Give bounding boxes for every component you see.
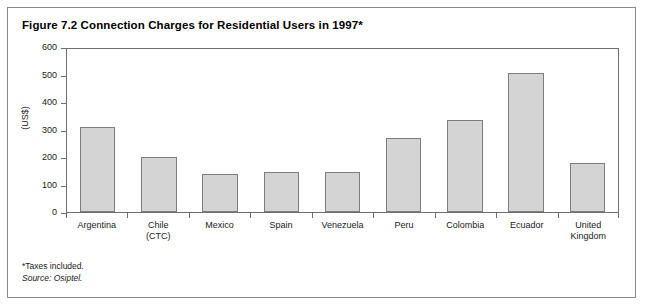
figure-frame: Figure 7.2 Connection Charges for Reside… [7, 7, 636, 298]
x-axis-label-line: Venezuela [312, 220, 373, 231]
bars-layer [67, 49, 618, 212]
bar-slot [128, 49, 189, 212]
x-tick-mark [127, 213, 128, 218]
x-axis-label-united-kingdom: UnitedKingdom [558, 220, 619, 242]
x-axis-label-line: Spain [250, 220, 311, 231]
bar-slot [557, 49, 618, 212]
figure-footnotes: *Taxes included. Source: Osiptel. [22, 261, 84, 284]
bar-venezuela [325, 172, 361, 212]
x-axis-label-line: United [558, 220, 619, 231]
y-tick-label: 0 [52, 207, 57, 217]
x-tick-mark [618, 213, 619, 218]
bar-united-kingdom [570, 163, 606, 213]
x-axis-label-line: (CTC) [127, 231, 188, 242]
x-axis-label-chile-ctc: Chile(CTC) [127, 220, 188, 242]
x-tick-mark [373, 213, 374, 218]
x-axis-label-colombia: Colombia [435, 220, 496, 242]
bar-slot [312, 49, 373, 212]
y-axis-ticks: 0100200300400500600 [22, 48, 66, 213]
note-taxes-included: *Taxes included. [22, 261, 84, 273]
x-axis-label-spain: Spain [250, 220, 311, 242]
y-tick-label: 300 [42, 125, 57, 135]
x-tick-mark [250, 213, 251, 218]
x-axis-labels: ArgentinaChile(CTC)MexicoSpainVenezuelaP… [66, 220, 619, 242]
x-axis-label-argentina: Argentina [66, 220, 127, 242]
y-tick-label: 200 [42, 152, 57, 162]
bar-slot [251, 49, 312, 212]
bar-chile-ctc [141, 157, 177, 212]
bar-slot [373, 49, 434, 212]
x-axis-label-line: Mexico [189, 220, 250, 231]
x-axis-label-line: Peru [373, 220, 434, 231]
bar-colombia [447, 120, 483, 212]
x-axis-label-ecuador: Ecuador [496, 220, 557, 242]
x-tick-mark [189, 213, 190, 218]
x-tick-mark [496, 213, 497, 218]
x-tick-mark [312, 213, 313, 218]
note-source: Source: Osiptel. [22, 273, 84, 285]
bar-slot [434, 49, 495, 212]
y-tick-label: 600 [42, 42, 57, 52]
bar-slot [189, 49, 250, 212]
bar-argentina [80, 127, 116, 212]
x-tick-mark [66, 213, 67, 218]
bar-slot [496, 49, 557, 212]
plot-area [66, 48, 619, 213]
y-tick-label: 500 [42, 70, 57, 80]
figure-title: Figure 7.2 Connection Charges for Reside… [22, 19, 363, 31]
x-axis-label-venezuela: Venezuela [312, 220, 373, 242]
bar-peru [386, 138, 422, 212]
x-tick-mark [558, 213, 559, 218]
y-tick-label: 100 [42, 180, 57, 190]
x-axis-label-mexico: Mexico [189, 220, 250, 242]
x-axis-label-line: Colombia [435, 220, 496, 231]
bar-chart: (US$) 0100200300400500600 ArgentinaChile… [22, 46, 622, 251]
x-axis-ticks [66, 213, 619, 219]
bar-mexico [202, 174, 238, 212]
y-tick-label: 400 [42, 97, 57, 107]
bar-slot [67, 49, 128, 212]
x-axis-label-line: Ecuador [496, 220, 557, 231]
x-axis-label-line: Kingdom [558, 231, 619, 242]
x-tick-mark [435, 213, 436, 218]
bar-spain [264, 172, 300, 212]
bar-ecuador [508, 73, 544, 212]
x-axis-label-line: Argentina [66, 220, 127, 231]
x-axis-label-peru: Peru [373, 220, 434, 242]
x-axis-label-line: Chile [127, 220, 188, 231]
